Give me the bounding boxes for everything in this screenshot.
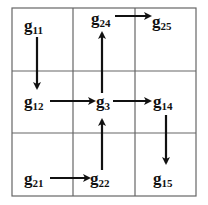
node-g21: g21 xyxy=(24,170,44,189)
node-g24: g24 xyxy=(91,10,111,29)
node-g25: g25 xyxy=(152,13,172,32)
node-g11: g11 xyxy=(24,17,43,36)
node-g15: g15 xyxy=(153,170,173,189)
node-g14: g14 xyxy=(153,93,173,112)
node-g12: g12 xyxy=(24,93,44,112)
node-g22: g22 xyxy=(90,170,110,189)
node-g3: g3 xyxy=(96,93,110,112)
